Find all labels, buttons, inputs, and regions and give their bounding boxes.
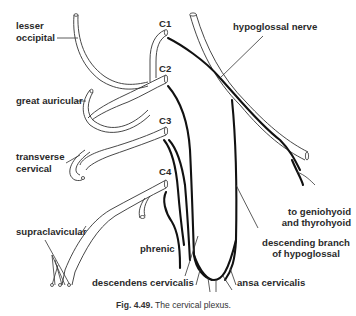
transverse-cervical-nerve bbox=[66, 150, 90, 181]
label-descendens-cervicalis: descendens cervicalis bbox=[92, 277, 194, 288]
phrenic-nerve bbox=[164, 192, 180, 268]
figure-title: The cervical plexus. bbox=[155, 300, 231, 310]
label-c4: C4 bbox=[159, 166, 171, 177]
label-c3: C3 bbox=[159, 115, 171, 126]
label-descending-branch-2: of hypoglossal bbox=[260, 248, 352, 259]
label-c1: C1 bbox=[159, 18, 171, 29]
label-to-geniohyoid-2: and thyrohyoid bbox=[282, 217, 351, 228]
figure-caption: Fig. 4.49. The cervical plexus. bbox=[116, 300, 231, 310]
label-great-auricular: great auricular bbox=[16, 95, 83, 106]
label-ansa-cervicalis: ansa cervicalis bbox=[237, 277, 305, 288]
label-transverse-cervical-1: transverse bbox=[16, 151, 65, 162]
leader-lines bbox=[185, 36, 263, 276]
label-supraclavicular: supraclavicular bbox=[16, 226, 86, 237]
ansa-cervicalis-loop bbox=[194, 240, 236, 292]
c3-root bbox=[80, 127, 168, 170]
label-to-geniohyoid-1: to geniohyoid bbox=[288, 206, 351, 217]
label-lesser-occipital-2: occipital bbox=[16, 32, 55, 43]
lesser-occipital-nerve bbox=[57, 14, 148, 89]
label-hypoglossal-nerve: hypoglossal nerve bbox=[233, 21, 317, 32]
label-lesser-occipital-1: lesser bbox=[16, 20, 44, 31]
c1-root bbox=[150, 30, 168, 83]
label-c2: C2 bbox=[159, 63, 171, 74]
descending-branch-line bbox=[225, 100, 236, 280]
great-auricular-nerve bbox=[76, 89, 150, 132]
label-transverse-cervical-2: cervical bbox=[16, 163, 52, 174]
c2-root bbox=[88, 75, 168, 120]
label-phrenic: phrenic bbox=[140, 243, 175, 254]
hypoglossal-nerve-tube bbox=[190, 13, 309, 160]
label-descending-branch-1: descending branch bbox=[260, 237, 352, 248]
figure-number: Fig. 4.49. bbox=[116, 300, 153, 310]
